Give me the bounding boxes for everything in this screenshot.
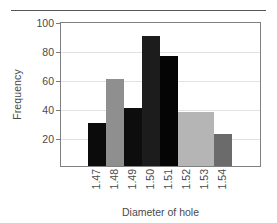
x-axis-tick-label: 1.53 xyxy=(199,169,209,201)
y-axis-tick-label: 100 xyxy=(36,18,54,29)
x-axis-tick-label: 1.47 xyxy=(91,169,101,201)
bar xyxy=(142,36,160,167)
x-axis-tick-label: 1.52 xyxy=(181,169,191,201)
x-axis-title: Diameter of hole xyxy=(60,206,261,218)
y-axis-tick-label: 60 xyxy=(42,76,54,87)
plot-area: 20406080100 xyxy=(60,22,261,167)
x-axis-tick-label: 1.48 xyxy=(109,169,119,201)
bar xyxy=(178,112,196,166)
bar xyxy=(214,134,232,166)
bar xyxy=(196,112,214,166)
bar xyxy=(88,123,106,167)
histogram-figure: Frequency 20406080100 1.471.481.491.501.… xyxy=(0,0,277,223)
y-axis-title: Frequency xyxy=(10,22,24,167)
y-axis-tick-label: 40 xyxy=(42,105,54,116)
bar xyxy=(160,56,178,166)
y-axis-tick-label: 20 xyxy=(42,134,54,145)
bar xyxy=(106,79,124,166)
x-axis-tick-label: 1.50 xyxy=(145,169,155,201)
y-axis-tick-label: 80 xyxy=(42,47,54,58)
bar xyxy=(124,108,142,166)
x-axis-tick-label: 1.54 xyxy=(217,169,227,201)
x-axis-tick-label: 1.49 xyxy=(127,169,137,201)
bar-series xyxy=(61,23,260,166)
x-axis-tick-label: 1.51 xyxy=(163,169,173,201)
top-rule-divider xyxy=(11,10,266,11)
